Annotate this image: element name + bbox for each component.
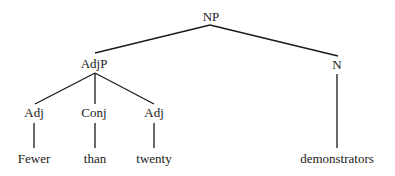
word-twenty: twenty <box>136 151 172 166</box>
node-adjp: AdjP <box>81 56 108 71</box>
edge-np-n <box>210 25 338 56</box>
word-than: than <box>84 151 107 166</box>
word-fewer: Fewer <box>18 151 51 166</box>
edge-adjp-adj1 <box>35 73 95 104</box>
node-n: N <box>332 57 342 72</box>
word-demonstrators: demonstrators <box>300 151 374 166</box>
node-np: NP <box>203 9 220 24</box>
node-conj: Conj <box>81 105 106 120</box>
node-adj2: Adj <box>144 105 164 120</box>
edge-np-adjp <box>95 25 210 53</box>
edge-adjp-adj2 <box>95 73 154 104</box>
syntax-tree: NP AdjP N Adj Conj Adj Fewer than twenty… <box>0 0 395 176</box>
node-adj1: Adj <box>24 105 44 120</box>
